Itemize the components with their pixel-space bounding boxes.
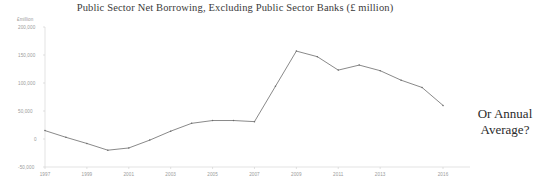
chart-container: Public Sector Net Borrowing, Excluding P…: [0, 0, 549, 190]
data-point-marker: [254, 121, 256, 123]
data-point-marker: [191, 123, 193, 125]
data-point-marker: [358, 64, 360, 66]
data-point-marker: [233, 120, 235, 122]
data-point-marker: [421, 87, 423, 89]
data-series-line: [45, 51, 443, 150]
data-point-marker: [149, 139, 151, 141]
data-point-marker: [44, 130, 46, 132]
data-point-marker: [107, 149, 109, 151]
data-point-markers: [44, 50, 444, 151]
data-point-marker: [296, 50, 298, 52]
chart-plot-svg: [0, 0, 549, 190]
data-point-marker: [379, 70, 381, 72]
data-point-marker: [170, 130, 172, 132]
annotation-or-annual-average: Or Annual Average?: [462, 106, 548, 138]
axis-tick-marks: [43, 27, 443, 169]
data-point-marker: [212, 120, 214, 122]
data-point-marker: [65, 137, 67, 139]
data-point-marker: [338, 69, 340, 71]
axis-lines: [45, 27, 470, 167]
data-point-marker: [128, 147, 130, 149]
data-point-marker: [275, 86, 277, 88]
annotation-line-1: Or Annual: [462, 106, 548, 122]
data-point-marker: [442, 105, 444, 107]
data-point-marker: [317, 56, 319, 58]
annotation-line-2: Average?: [462, 122, 548, 138]
data-point-marker: [86, 143, 88, 145]
data-point-marker: [400, 79, 402, 81]
